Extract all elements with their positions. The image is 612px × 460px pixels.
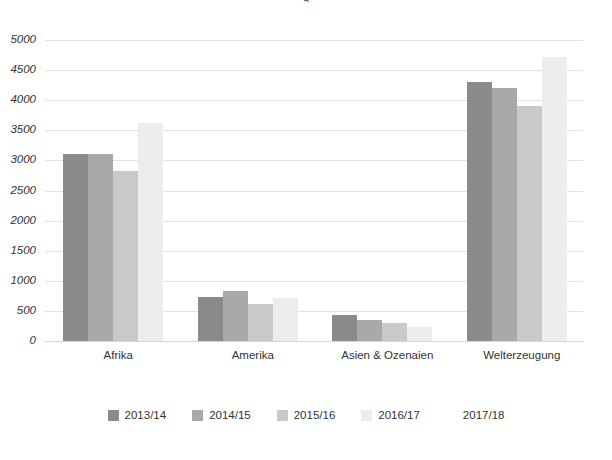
y-axis-tick-label: 500 (17, 305, 36, 317)
bar[interactable] (113, 171, 138, 341)
legend-swatch-icon (361, 410, 372, 421)
bar[interactable] (248, 304, 273, 341)
y-axis-tick-label: 2000 (10, 215, 36, 227)
bar[interactable] (467, 82, 492, 341)
bar-group (449, 40, 584, 341)
y-axis-tick-label: 3000 (10, 155, 36, 167)
bar[interactable] (382, 323, 407, 341)
bar[interactable] (223, 291, 248, 341)
bar-group-bars (180, 40, 315, 341)
bar[interactable] (492, 88, 517, 341)
bar[interactable] (273, 298, 298, 341)
y-axis-tick-label: 1500 (10, 245, 36, 257)
chart-title-fragment: g (0, 0, 612, 2)
legend-swatch-icon (277, 410, 288, 421)
legend-item[interactable]: 2017/18 (446, 410, 505, 422)
bar-group (314, 40, 449, 341)
bar-group (45, 40, 180, 341)
y-axis-tick-label: 4000 (10, 94, 36, 106)
y-axis: 5000450040003500300025002000150010005000 (0, 40, 45, 341)
gridline (45, 341, 583, 342)
x-axis-category-label: Amerika (180, 345, 315, 365)
legend-item[interactable]: 2013/14 (108, 410, 167, 422)
legend-swatch-icon (192, 410, 203, 421)
bar[interactable] (542, 57, 567, 341)
y-axis-tick-label: 1000 (10, 275, 36, 287)
bar-group-bars (314, 40, 449, 341)
bar-group-bars (45, 40, 180, 341)
bar[interactable] (138, 123, 163, 341)
bar[interactable] (88, 154, 113, 341)
y-axis-tick-label: 5000 (10, 34, 36, 46)
x-axis-category-label: Asien & Ozenaien (314, 345, 449, 365)
bar[interactable] (357, 320, 382, 341)
bar-groups (45, 40, 583, 341)
legend: 2013/142014/152015/162016/172017/18 (0, 410, 612, 422)
y-axis-tick-label: 0 (30, 335, 36, 347)
legend-item[interactable]: 2016/17 (361, 410, 420, 422)
legend-label: 2013/14 (125, 410, 167, 422)
bar-group-bars (449, 40, 584, 341)
legend-label: 2014/15 (209, 410, 251, 422)
legend-label: 2017/18 (463, 410, 505, 422)
legend-swatch-icon (446, 410, 457, 421)
bar[interactable] (517, 106, 542, 341)
plot-area (45, 40, 583, 341)
legend-label: 2016/17 (378, 410, 420, 422)
x-axis-category-label: Afrika (45, 345, 180, 365)
y-axis-tick-label: 4500 (10, 64, 36, 76)
bar[interactable] (198, 297, 223, 341)
bar[interactable] (332, 315, 357, 341)
bar[interactable] (407, 327, 432, 341)
legend-item[interactable]: 2015/16 (277, 410, 336, 422)
legend-label: 2015/16 (294, 410, 336, 422)
x-axis: AfrikaAmerikaAsien & OzenaienWelterzeugu… (45, 345, 583, 365)
bar[interactable] (63, 154, 88, 341)
y-axis-tick-label: 3500 (10, 125, 36, 137)
x-axis-category-label: Welterzeugung (449, 345, 584, 365)
legend-swatch-icon (108, 410, 119, 421)
bar-chart: g 50004500400035003000250020001500100050… (0, 0, 612, 460)
bar-group (180, 40, 315, 341)
y-axis-tick-label: 2500 (10, 185, 36, 197)
legend-item[interactable]: 2014/15 (192, 410, 251, 422)
